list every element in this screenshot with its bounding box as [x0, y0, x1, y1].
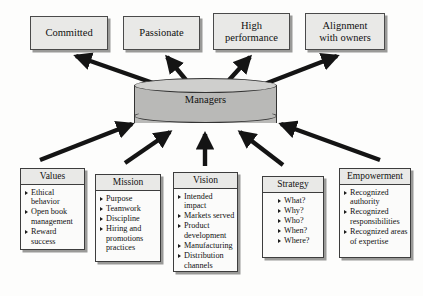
arrow-values-to-managers — [40, 124, 132, 160]
list-item: Markets served — [177, 211, 235, 221]
list-item: Product development — [177, 221, 235, 240]
cylinder-bottom-ellipse — [134, 109, 277, 123]
outcome-label-line2: performance — [225, 32, 278, 44]
list-item: Who? — [277, 216, 321, 226]
arrow-strategy-to-managers — [240, 132, 283, 165]
driver-box-empowerment[interactable]: Empowerment Recognized authority Recogni… — [339, 168, 411, 258]
list-item: Why? — [277, 206, 321, 216]
list-item: Reward success — [24, 227, 82, 246]
driver-items-strategy: What? Why? Who? When? Where? — [263, 193, 323, 249]
managers-label: Managers — [134, 94, 277, 105]
driver-title-mission: Mission — [96, 175, 160, 191]
outcome-box-passionate[interactable]: Passionate — [123, 16, 200, 50]
driver-items-empowerment: Recognized authority Recognized responsi… — [340, 185, 410, 250]
cylinder-top-ellipse — [134, 78, 277, 93]
arrow-managers-to-high-performance — [229, 57, 250, 80]
outcome-label-line1: Alignment — [319, 20, 371, 32]
list-item: Ethical behavior — [24, 188, 82, 207]
driver-box-values[interactable]: Values Ethical behavior Open book manage… — [20, 168, 85, 250]
diagram-canvas: Committed Passionate High performance Al… — [0, 0, 423, 296]
list-item: Distribution channels — [177, 251, 235, 270]
list-item: Hiring and promotions practices — [99, 224, 158, 253]
outcome-box-alignment-with-owners[interactable]: Alignment with owners — [305, 13, 385, 50]
list-item: Purpose — [99, 194, 158, 204]
list-item: Recognized areas of expertise — [343, 227, 408, 246]
list-item: When? — [277, 226, 321, 236]
driver-box-mission[interactable]: Mission Purpose Teamwork Discipline Hiri… — [95, 174, 161, 262]
driver-title-empowerment: Empowerment — [340, 169, 410, 185]
list-item: Manufacturing — [177, 241, 235, 251]
outcome-label-line2: with owners — [319, 32, 371, 44]
driver-box-strategy[interactable]: Strategy What? Why? Who? When? Where? — [262, 176, 324, 258]
list-item: Teamwork — [99, 204, 158, 214]
list-item: Intended impact — [177, 192, 235, 211]
list-item: What? — [277, 196, 321, 206]
list-item: Recognized authority — [343, 188, 408, 207]
driver-items-values: Ethical behavior Open book management Re… — [21, 185, 84, 250]
outcome-label: Passionate — [139, 27, 183, 39]
list-item: Discipline — [99, 214, 158, 224]
outcome-box-high-performance[interactable]: High performance — [213, 13, 290, 50]
driver-items-vision: Intended impact Markets served Product d… — [174, 189, 237, 274]
list-item: Where? — [277, 236, 321, 246]
driver-title-values: Values — [21, 169, 84, 185]
outcome-label: Committed — [45, 27, 92, 39]
driver-box-vision[interactable]: Vision Intended impact Markets served Pr… — [173, 172, 238, 272]
managers-cylinder[interactable]: Managers — [134, 78, 277, 130]
driver-title-vision: Vision — [174, 173, 237, 189]
list-item: Recognized responsibilities — [343, 207, 408, 226]
arrow-mission-to-managers — [125, 132, 170, 163]
arrow-managers-to-passionate — [167, 57, 186, 80]
outcome-box-committed[interactable]: Committed — [30, 16, 108, 50]
arrow-empowerment-to-managers — [281, 124, 380, 160]
list-item: Open book management — [24, 207, 82, 226]
outcome-label-line1: High — [225, 20, 278, 32]
driver-items-mission: Purpose Teamwork Discipline Hiring and p… — [96, 191, 160, 256]
driver-title-strategy: Strategy — [263, 177, 323, 193]
